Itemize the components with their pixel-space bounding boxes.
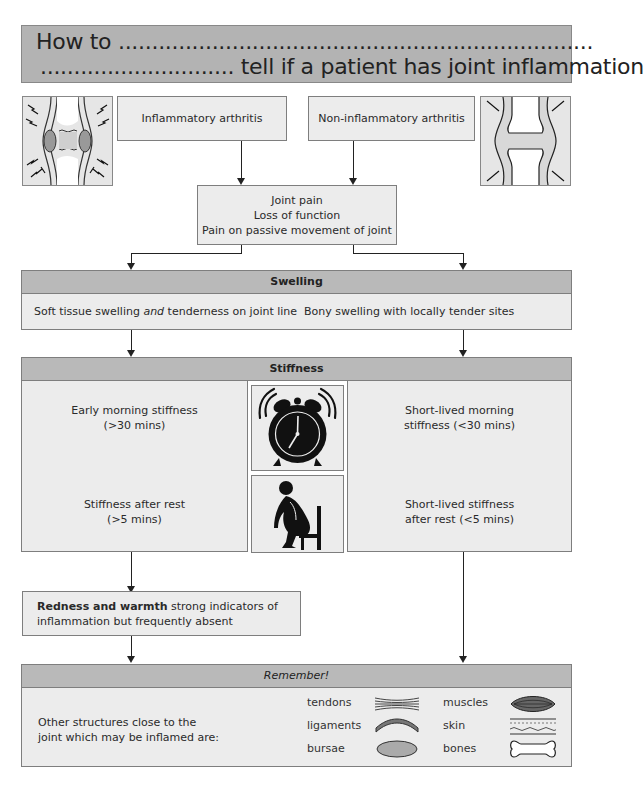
bursae-icon	[375, 740, 419, 758]
redness-warmth-bold: Redness and warmth	[37, 600, 168, 613]
redness-warmth-box: Redness and warmth strong indicators of …	[22, 591, 301, 636]
swelling-inflammatory-text: Soft tissue swelling and tenderness on j…	[34, 305, 297, 318]
arrow-down-icon	[459, 263, 467, 270]
connector-line	[463, 330, 464, 351]
legend-label-bursae: bursae	[307, 742, 345, 755]
connector-line	[131, 330, 132, 351]
stiffness-inflammatory-cell: Early morning stiffness (>30 mins) Stiff…	[21, 380, 248, 552]
inflammatory-arthritis-label: Inflammatory arthritis	[142, 111, 263, 126]
arrow-down-icon	[237, 178, 245, 185]
connector-line	[131, 253, 242, 254]
non-inflammatory-arthritis-label: Non-inflammatory arthritis	[318, 111, 465, 126]
swelling-body: Soft tissue swelling and tenderness on j…	[21, 293, 572, 330]
bones-icon	[510, 739, 556, 759]
muscles-icon	[510, 695, 556, 713]
swelling-non-inflammatory-text: Bony swelling with locally tender sites	[304, 305, 514, 318]
connector-line	[353, 141, 354, 179]
legend-label-bones: bones	[443, 742, 476, 755]
remember-body: Other structures close to the joint whic…	[21, 687, 572, 767]
symptom-loss-of-function: Loss of function	[198, 208, 396, 223]
title-line-2: ............................. tell if a …	[40, 54, 644, 79]
remember-intro: Other structures close to the joint whic…	[38, 715, 219, 745]
swelling-header: Swelling	[21, 270, 572, 294]
legend-label-muscles: muscles	[443, 696, 488, 709]
short-lived-stiffness-after-rest: Short-lived stiffness after rest (<5 min…	[348, 497, 571, 527]
normal-joint-icon	[480, 96, 571, 186]
non-inflammatory-arthritis-box: Non-inflammatory arthritis	[308, 96, 475, 141]
inflamed-joint-icon	[22, 96, 113, 186]
remember-header: Remember!	[21, 664, 572, 688]
short-lived-morning-stiffness: Short-lived morning stiffness (<30 mins)	[348, 403, 571, 433]
legend-label-ligaments: ligaments	[307, 719, 361, 732]
legend-label-tendons: tendons	[307, 696, 351, 709]
title-banner: How to .................................…	[21, 25, 572, 83]
sitting-person-icon	[251, 475, 344, 553]
connector-line	[353, 245, 354, 253]
arrow-down-icon	[349, 178, 357, 185]
arrow-down-icon	[127, 263, 135, 270]
symptoms-box: Joint pain Loss of function Pain on pass…	[197, 185, 397, 245]
inflammatory-arthritis-box: Inflammatory arthritis	[117, 96, 287, 141]
arrow-down-icon	[127, 350, 135, 357]
alarm-clock-icon	[251, 385, 344, 471]
symptom-passive-movement-pain: Pain on passive movement of joint	[198, 223, 396, 238]
skin-icon	[510, 718, 556, 736]
connector-line	[241, 141, 242, 179]
connector-line	[353, 253, 464, 254]
connector-line	[131, 552, 132, 587]
tendons-icon	[375, 696, 419, 712]
legend-label-skin: skin	[443, 719, 465, 732]
arrow-down-icon	[459, 350, 467, 357]
title-line-1: How to .................................…	[36, 29, 593, 54]
stiffness-non-inflammatory-cell: Short-lived morning stiffness (<30 mins)…	[347, 380, 572, 552]
ligaments-icon	[375, 718, 419, 734]
stiffness-header: Stiffness	[21, 357, 572, 381]
symptom-joint-pain: Joint pain	[198, 193, 396, 208]
connector-line	[241, 245, 242, 253]
connector-line	[131, 636, 132, 657]
arrow-down-icon	[127, 656, 135, 663]
arrow-down-icon	[459, 656, 467, 663]
early-morning-stiffness: Early morning stiffness (>30 mins)	[22, 403, 247, 433]
connector-line	[463, 552, 464, 657]
stiffness-after-rest: Stiffness after rest (>5 mins)	[22, 497, 247, 527]
